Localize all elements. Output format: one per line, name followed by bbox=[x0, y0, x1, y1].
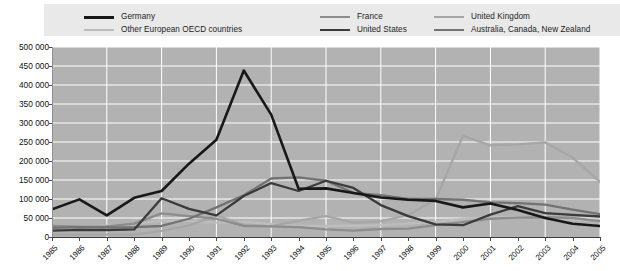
x-axis-tick-mark bbox=[545, 237, 546, 241]
x-axis-tick-label: 2003 bbox=[528, 244, 553, 269]
legend-label-france: France bbox=[357, 13, 383, 21]
x-axis-tick-mark bbox=[216, 237, 217, 241]
x-axis-tick-mark bbox=[52, 237, 53, 241]
x-axis-tick-label: 1992 bbox=[227, 244, 252, 269]
legend-label-germany: Germany bbox=[121, 13, 155, 21]
x-axis-tick-mark bbox=[189, 237, 190, 241]
y-axis-tick-mark bbox=[49, 85, 52, 86]
y-axis-tick-label: 150 000 bbox=[3, 176, 49, 184]
x-axis-tick-label: 1994 bbox=[282, 244, 307, 269]
plot-svg bbox=[52, 47, 600, 237]
x-axis-tick-mark bbox=[162, 237, 163, 241]
y-axis-tick-mark bbox=[49, 142, 52, 143]
y-axis-tick-label: 450 000 bbox=[3, 62, 49, 70]
x-axis-tick-mark bbox=[299, 237, 300, 241]
x-axis-tick-label: 1998 bbox=[391, 244, 416, 269]
y-axis-tick-label: 200 000 bbox=[3, 157, 49, 165]
legend-swatch-france-line-icon bbox=[320, 16, 350, 18]
x-axis-tick-mark bbox=[107, 237, 108, 241]
x-axis-tick-mark bbox=[518, 237, 519, 241]
y-axis-tick-mark bbox=[49, 47, 52, 48]
x-axis-tick-label: 1995 bbox=[309, 244, 334, 269]
x-axis-tick-label: 1996 bbox=[336, 244, 361, 269]
chart-page: GermanyOther European OECD countriesFran… bbox=[0, 0, 620, 271]
legend-column-2: United KingdomAustralia, Canada, New Zea… bbox=[434, 4, 620, 36]
legend-label-australia_canada_nz: Australia, Canada, New Zealand bbox=[471, 26, 590, 34]
legend-label-united_kingdom: United Kingdom bbox=[471, 13, 530, 21]
x-axis-tick-label: 2001 bbox=[473, 244, 498, 269]
x-axis-tick-label: 1993 bbox=[254, 244, 279, 269]
y-axis-tick-label: 300 000 bbox=[3, 119, 49, 127]
legend-label-united_states: United States bbox=[357, 26, 407, 34]
x-axis-tick-mark bbox=[600, 237, 601, 241]
y-axis-tick-mark bbox=[49, 180, 52, 181]
x-axis-tick-mark bbox=[381, 237, 382, 241]
legend-item-australia_canada_nz[interactable]: Australia, Canada, New Zealand bbox=[434, 22, 590, 38]
y-axis-tick-label: 350 000 bbox=[3, 100, 49, 108]
legend-label-other_european_oecd: Other European OECD countries bbox=[121, 26, 242, 34]
x-axis-tick-mark bbox=[326, 237, 327, 241]
legend-swatch-united_states-line-icon bbox=[320, 29, 350, 31]
x-axis-tick-mark bbox=[573, 237, 574, 241]
y-axis-tick-label: 400 000 bbox=[3, 81, 49, 89]
x-axis-tick-label: 2000 bbox=[446, 244, 471, 269]
y-axis-tick-mark bbox=[49, 104, 52, 105]
x-axis-tick-mark bbox=[408, 237, 409, 241]
chart-legend: GermanyOther European OECD countriesFran… bbox=[44, 4, 620, 36]
y-axis-tick-label: 100 000 bbox=[3, 195, 49, 203]
x-axis-tick-label: 1988 bbox=[117, 244, 142, 269]
x-axis-tick-mark bbox=[463, 237, 464, 241]
legend-item-united_states[interactable]: United States bbox=[320, 22, 407, 38]
x-axis-tick-label: 1989 bbox=[145, 244, 170, 269]
y-axis-tick-mark bbox=[49, 218, 52, 219]
y-axis: 050 000100 000150 000200 000250 000300 0… bbox=[0, 0, 49, 271]
legend-swatch-united_kingdom-line-icon bbox=[434, 16, 464, 18]
legend-swatch-australia_canada_nz-line-icon bbox=[434, 29, 464, 31]
x-axis-tick-label: 2004 bbox=[556, 244, 581, 269]
x-axis-tick-label: 2005 bbox=[583, 244, 608, 269]
x-axis-tick-mark bbox=[271, 237, 272, 241]
x-axis-tick-mark bbox=[353, 237, 354, 241]
legend-item-other_european_oecd[interactable]: Other European OECD countries bbox=[84, 22, 242, 38]
legend-swatch-germany-line-icon bbox=[84, 16, 114, 19]
x-axis-tick-label: 1987 bbox=[90, 244, 115, 269]
legend-swatch-other_european_oecd-line-icon bbox=[84, 29, 114, 31]
x-axis: 1985198619871988198919901991199219931994… bbox=[0, 237, 620, 271]
y-axis-tick-mark bbox=[49, 237, 52, 238]
x-axis-tick-label: 1986 bbox=[62, 244, 87, 269]
x-axis-tick-mark bbox=[436, 237, 437, 241]
x-axis-tick-mark bbox=[79, 237, 80, 241]
y-axis-tick-mark bbox=[49, 123, 52, 124]
y-axis-tick-mark bbox=[49, 66, 52, 67]
x-axis-tick-label: 1985 bbox=[35, 244, 60, 269]
x-axis-tick-label: 1997 bbox=[364, 244, 389, 269]
y-axis-tick-label: 250 000 bbox=[3, 138, 49, 146]
y-axis-tick-label: 50 000 bbox=[3, 214, 49, 222]
x-axis-tick-mark bbox=[134, 237, 135, 241]
y-axis-line bbox=[52, 47, 53, 237]
x-axis-tick-label: 1991 bbox=[199, 244, 224, 269]
y-axis-tick-label: 500 000 bbox=[3, 43, 49, 51]
legend-column-0: GermanyOther European OECD countries bbox=[84, 4, 314, 36]
y-axis-tick-mark bbox=[49, 161, 52, 162]
x-axis-tick-mark bbox=[490, 237, 491, 241]
x-axis-tick-label: 1999 bbox=[419, 244, 444, 269]
x-axis-tick-label: 1990 bbox=[172, 244, 197, 269]
y-axis-tick-mark bbox=[49, 199, 52, 200]
plot-area bbox=[52, 47, 600, 237]
x-axis-tick-label: 2002 bbox=[501, 244, 526, 269]
x-axis-tick-mark bbox=[244, 237, 245, 241]
